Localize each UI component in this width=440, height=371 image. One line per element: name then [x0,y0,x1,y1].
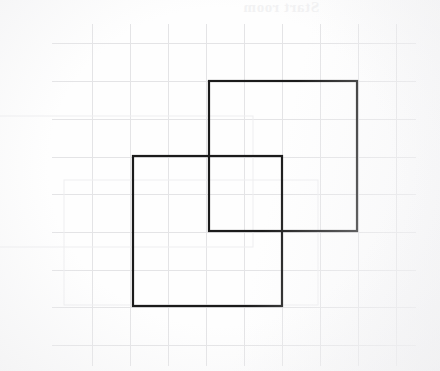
mirrored-watermark-text: Start room [243,0,319,16]
drawn-shapes-layer [0,0,440,371]
worksheet-page: Start room [0,0,440,371]
